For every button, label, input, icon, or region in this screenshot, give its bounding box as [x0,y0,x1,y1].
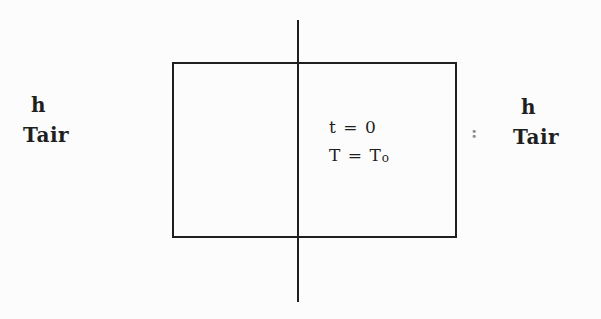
slab-convection-diagram: h Tair : h Tair t = 0 T = To [0,0,601,319]
colon-separator: : [471,121,477,143]
left-convection-coefficient-label: h [23,90,69,120]
temperature-equation: T = To [329,141,389,172]
left-boundary-label: h Tair [23,90,69,150]
initial-condition-text: t = 0 T = To [329,113,389,172]
temperature-equation-main: T = T [329,145,382,165]
slab-rectangle [172,62,457,238]
right-boundary-label: h Tair [513,92,559,152]
left-air-temperature-label: Tair [23,120,69,150]
right-convection-coefficient-label: h [513,92,559,122]
time-equation: t = 0 [329,113,389,141]
temperature-equation-subscript: o [382,151,389,165]
right-air-temperature-label: Tair [513,122,559,152]
